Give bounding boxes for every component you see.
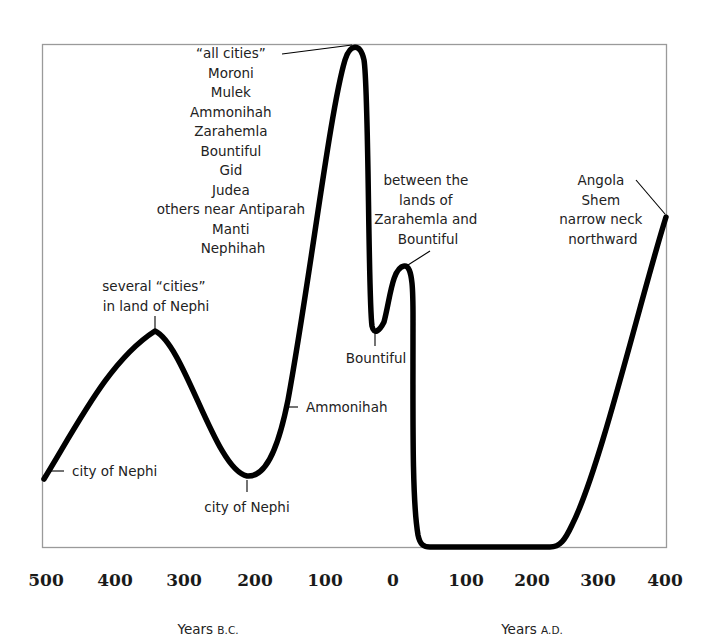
- x-axis-ticks: 500 400 300 200 100 0 100 200 300 400: [28, 570, 683, 590]
- annotation-valley1: city of Nephi: [204, 499, 289, 515]
- leader-lines: [48, 45, 665, 492]
- x-axis-title-bc: Years B.C.: [176, 621, 238, 637]
- tick-label: 400: [97, 570, 133, 590]
- tick-label: 100: [307, 570, 343, 590]
- tick-label: 0: [387, 570, 399, 590]
- annotation-hump: between the lands of Zarahemla and Bount…: [374, 172, 481, 247]
- annotation-dip: Bountiful: [346, 350, 407, 366]
- tick-label: 300: [580, 570, 616, 590]
- tick-label: 200: [237, 570, 273, 590]
- leader-hump: [408, 251, 430, 265]
- annotation-peak2: “all cities” Moroni Mulek Ammonihah Zara…: [157, 45, 310, 256]
- x-axis-title-ad: Years A.D.: [500, 621, 563, 637]
- leader-end: [636, 180, 665, 214]
- annotation-rise: Ammonihah: [306, 399, 388, 415]
- chart: city of Nephi several “cities” in land o…: [0, 0, 708, 642]
- annotation-peak1: several “cities” in land of Nephi: [102, 278, 209, 314]
- annotation-end: Angola Shem narrow neck northward: [559, 172, 646, 247]
- tick-label: 500: [28, 570, 64, 590]
- tick-label: 200: [514, 570, 550, 590]
- tick-label: 400: [647, 570, 683, 590]
- annotation-start: city of Nephi: [72, 463, 157, 479]
- tick-label: 300: [166, 570, 202, 590]
- leader-peak2: [282, 45, 352, 54]
- tick-label: 100: [448, 570, 484, 590]
